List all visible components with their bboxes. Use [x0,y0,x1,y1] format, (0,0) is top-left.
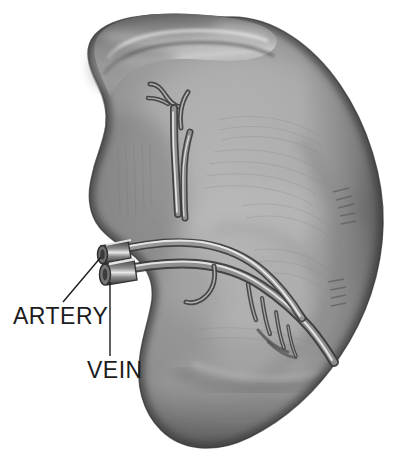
label-artery: ARTERY [13,305,108,328]
artery-leader-line [63,257,101,302]
left-lobe-shading [90,42,126,90]
bottom-rim-shadow [0,380,410,464]
right-rim-shadow [300,0,410,464]
splenic-body [0,0,410,464]
illustration-canvas: ARTERY VEIN [0,0,410,464]
spleen-illustration [0,0,410,464]
label-vein: VEIN [87,359,143,382]
